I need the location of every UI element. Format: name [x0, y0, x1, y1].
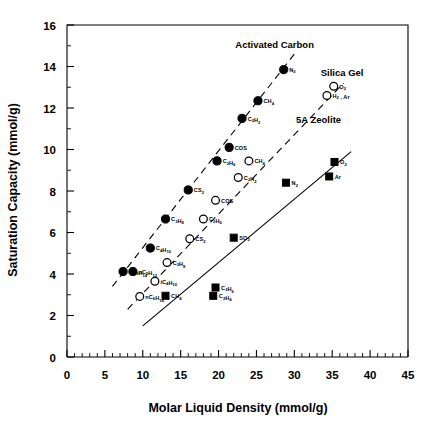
- marker-filled-square: [326, 173, 333, 180]
- x-tick-label: 15: [174, 369, 187, 381]
- chart-figure: 051015202530354045 0246810121416 nC6H14n…: [0, 0, 430, 425]
- marker-filled-square: [230, 234, 237, 241]
- data-point-label: COS: [235, 145, 247, 151]
- marker-open-circle: [212, 196, 220, 204]
- y-tick-label: 12: [43, 103, 56, 115]
- marker-filled-square: [282, 179, 289, 186]
- marker-open-circle: [186, 235, 194, 243]
- y-axis-title: Saturation Capacity (mmol/g): [6, 103, 20, 277]
- x-tick-label: 0: [64, 369, 70, 381]
- marker-open-circle: [163, 259, 171, 267]
- x-tick-label: 25: [250, 369, 263, 381]
- marker-open-circle: [200, 215, 208, 223]
- y-tick-label: 14: [43, 61, 56, 73]
- marker-filled-square: [210, 292, 217, 299]
- marker-open-circle: [136, 293, 144, 301]
- x-axis-title: Molar Liquid Density (mmol/g): [148, 401, 327, 415]
- marker-filled-circle: [146, 244, 154, 252]
- marker-filled-square: [212, 284, 219, 291]
- y-tick-label: 10: [43, 144, 56, 156]
- x-tick-label: 30: [288, 369, 301, 381]
- data-point-label: Ar: [335, 174, 342, 180]
- y-tick-label: 8: [50, 186, 57, 198]
- x-tick-label: 35: [326, 369, 339, 381]
- x-tick-label: 5: [102, 369, 109, 381]
- series-annotation-activated-carbon: Activated Carbon: [235, 39, 314, 50]
- x-tick-label: 20: [212, 369, 225, 381]
- marker-filled-circle: [184, 186, 192, 194]
- marker-filled-circle: [238, 114, 246, 122]
- y-tick-label: 16: [43, 20, 56, 32]
- marker-filled-square: [331, 158, 338, 165]
- data-point-label: COS: [221, 198, 233, 204]
- series-annotation-5a-zeolite: 5A Zeolite: [296, 114, 341, 125]
- saturation-capacity-scatter-plot: 051015202530354045 0246810121416 nC6H14n…: [0, 0, 430, 425]
- marker-open-circle: [245, 157, 253, 165]
- marker-filled-circle: [119, 267, 127, 275]
- marker-filled-circle: [161, 215, 169, 223]
- marker-filled-circle: [254, 97, 262, 105]
- marker-open-circle: [323, 92, 331, 100]
- x-tick-label: 45: [402, 369, 415, 381]
- y-tick-label: 4: [50, 269, 57, 281]
- chart-background: [0, 0, 430, 425]
- marker-open-circle: [234, 174, 242, 182]
- marker-filled-circle: [225, 143, 233, 151]
- marker-filled-circle: [213, 157, 221, 165]
- marker-open-circle: [151, 277, 159, 285]
- y-tick-label: 0: [50, 352, 56, 364]
- y-tick-label: 6: [50, 227, 56, 239]
- series-annotation-silica-gel: Silica Gel: [321, 67, 364, 78]
- x-tick-label: 10: [136, 369, 149, 381]
- y-tick-label: 2: [50, 310, 56, 322]
- x-tick-label: 40: [364, 369, 377, 381]
- marker-filled-circle: [280, 66, 288, 74]
- marker-open-circle: [330, 82, 338, 90]
